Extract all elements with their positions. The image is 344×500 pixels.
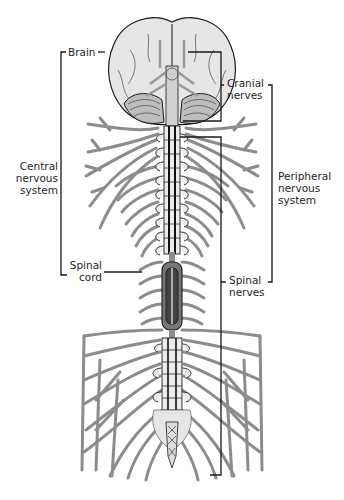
brain-illustration xyxy=(109,18,236,126)
peripheral-nervous-system-label: Peripheral nervous system xyxy=(278,170,331,206)
cranial-nerves-label: Cranial nerves xyxy=(227,77,264,101)
central-bracket xyxy=(61,52,67,275)
spinal-cord-label: Spinal cord xyxy=(62,259,102,283)
peripheral-bracket xyxy=(268,85,272,282)
spinal-column-illustration xyxy=(153,126,192,468)
brain-label: Brain xyxy=(68,46,96,58)
spinal-nerves-label: Spinal nerves xyxy=(229,274,265,298)
central-nervous-system-label: Central nervous system xyxy=(8,160,58,196)
nervous-system-diagram: Brain Central nervous system Spinal cord… xyxy=(0,0,344,500)
anatomy-illustration xyxy=(0,0,344,500)
